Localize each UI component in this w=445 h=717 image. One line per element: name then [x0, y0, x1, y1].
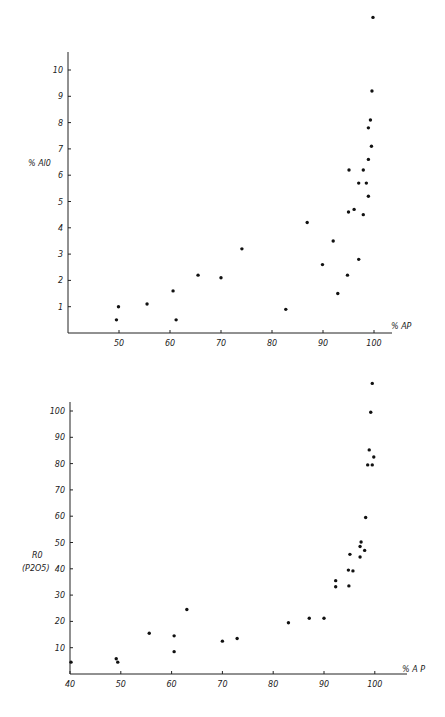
data-point — [367, 126, 370, 129]
y-axis-title-line2: (P2O5) — [22, 564, 50, 573]
y-tick-label: 3 — [58, 250, 63, 259]
data-point — [347, 568, 350, 571]
y-tick-label: 10 — [55, 644, 65, 653]
y-tick-label: 4 — [58, 224, 63, 233]
y-tick-label: 7 — [58, 145, 64, 154]
scatter-chart-r0: 102030405060708090100 405060708090100 R0… — [0, 360, 445, 717]
y-tick-label: 100 — [50, 407, 65, 416]
data-point — [115, 318, 118, 321]
data-point — [371, 463, 374, 466]
data-point — [284, 308, 287, 311]
data-point — [221, 639, 224, 642]
x-tick-label: 90 — [319, 680, 329, 689]
data-point — [371, 382, 374, 385]
data-point — [365, 181, 368, 184]
y-tick-label: 6 — [58, 171, 63, 180]
data-point — [362, 168, 365, 171]
x-tick-label: 100 — [367, 680, 382, 689]
data-point — [116, 660, 119, 663]
data-point — [174, 318, 177, 321]
y-tick-label: 5 — [58, 198, 63, 207]
data-point — [368, 448, 371, 451]
y-tick-label: 8 — [58, 119, 63, 128]
y-tick-label: 1 — [58, 303, 63, 312]
x-tick-label: 60 — [167, 680, 177, 689]
data-point — [359, 540, 362, 543]
data-point — [148, 632, 151, 635]
y-tick-label: 40 — [55, 565, 65, 574]
data-point — [334, 585, 337, 588]
x-tick-label: 100 — [366, 339, 381, 348]
data-point — [347, 210, 350, 213]
data-point — [305, 221, 308, 224]
y-tick-label: 60 — [55, 512, 65, 521]
data-point — [346, 273, 349, 276]
data-point — [367, 195, 370, 198]
data-point — [219, 276, 222, 279]
data-point — [172, 650, 175, 653]
data-point — [366, 463, 369, 466]
data-point — [171, 289, 174, 292]
x-tick-label: 70 — [216, 339, 226, 348]
data-point — [367, 158, 370, 161]
data-point — [362, 213, 365, 216]
data-point — [347, 168, 350, 171]
data-point — [117, 305, 120, 308]
y-tick-label: 20 — [55, 617, 65, 626]
data-point — [240, 247, 243, 250]
y-axis-title: % Al0 — [28, 159, 51, 168]
y-axis-title-line1: R0 — [32, 551, 43, 560]
data-point — [185, 608, 188, 611]
x-tick-label: 40 — [65, 680, 75, 689]
data-point — [69, 660, 72, 663]
y-axis: 102030405060708090100 — [50, 402, 73, 674]
data-point — [370, 145, 373, 148]
data-point — [145, 302, 148, 305]
data-point — [352, 208, 355, 211]
scatter-chart-al0: 12345678910 5060708090100 % Al0 % AP — [0, 0, 445, 360]
x-tick-label: 80 — [268, 680, 278, 689]
data-point — [308, 617, 311, 620]
y-tick-label: 10 — [53, 66, 63, 75]
x-axis: 5060708090100 — [68, 330, 392, 348]
data-point — [363, 549, 366, 552]
data-point — [348, 553, 351, 556]
x-tick-label: 50 — [116, 680, 126, 689]
data-point — [347, 584, 350, 587]
data-point — [321, 263, 324, 266]
data-point — [372, 455, 375, 458]
data-point — [370, 89, 373, 92]
data-point — [115, 657, 118, 660]
x-tick-label: 50 — [114, 339, 124, 348]
data-point — [364, 516, 367, 519]
data-point — [322, 617, 325, 620]
y-tick-label: 30 — [55, 591, 65, 600]
x-axis-title: % AP — [391, 322, 412, 331]
x-axis: 405060708090100 — [65, 671, 407, 689]
y-tick-label: 2 — [58, 276, 63, 285]
data-points — [115, 16, 375, 322]
data-point — [336, 292, 339, 295]
data-point — [357, 181, 360, 184]
y-tick-label: 50 — [55, 539, 65, 548]
data-point — [235, 637, 238, 640]
y-tick-label: 90 — [55, 433, 65, 442]
data-point — [358, 545, 361, 548]
data-point — [196, 273, 199, 276]
data-point — [172, 634, 175, 637]
data-point — [287, 621, 290, 624]
x-tick-label: 70 — [217, 680, 227, 689]
data-point — [357, 258, 360, 261]
y-axis: 12345678910 — [53, 52, 71, 333]
x-tick-label: 80 — [267, 339, 277, 348]
data-point — [369, 411, 372, 414]
y-tick-label: 9 — [58, 92, 63, 101]
data-point — [334, 579, 337, 582]
data-points — [69, 382, 375, 664]
data-point — [371, 16, 374, 19]
x-tick-label: 60 — [165, 339, 175, 348]
y-tick-label: 70 — [55, 486, 65, 495]
x-axis-title: % A P — [402, 665, 425, 674]
x-tick-label: 90 — [318, 339, 328, 348]
data-point — [369, 118, 372, 121]
